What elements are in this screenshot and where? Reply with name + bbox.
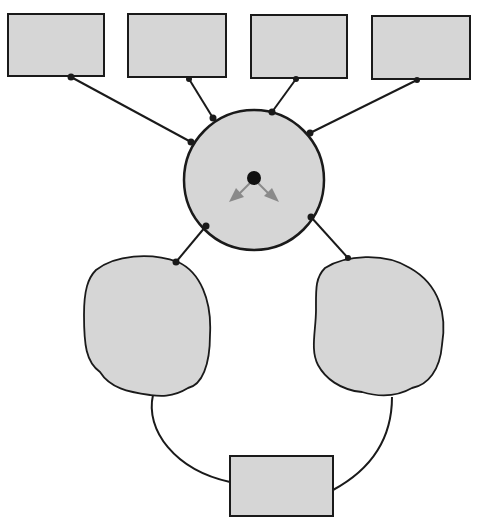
fdd2-to-hub-line: [272, 79, 296, 112]
hub-to-ansi-line: [311, 217, 348, 258]
hub-to-gsm-line: [176, 226, 206, 262]
tdd-to-hub-line: [310, 80, 417, 133]
fdd1-to-hub-line: [189, 79, 213, 118]
diagram-canvas: [0, 0, 484, 527]
ansi-to-internet-curve: [333, 397, 392, 490]
fdd-mode-1-box: [128, 14, 226, 77]
internet-access-box: [230, 456, 333, 516]
tdd-mode-box: [372, 16, 470, 79]
edge-to-hub-line: [71, 77, 191, 142]
ansi-core-network-blob: [314, 257, 444, 395]
gsm-core-network-blob: [84, 256, 210, 396]
gsm-to-internet-curve: [152, 395, 230, 482]
fdd-mode-2-box: [251, 15, 347, 78]
edge-radio-access-box: [8, 14, 104, 76]
